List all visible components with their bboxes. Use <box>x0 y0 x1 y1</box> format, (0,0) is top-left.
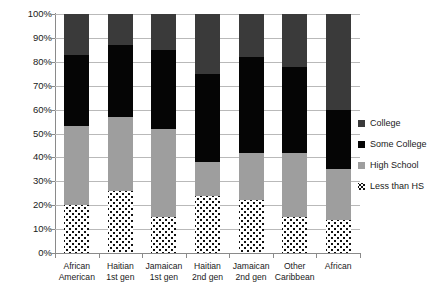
segment-high-school[interactable] <box>108 117 133 191</box>
segment-college[interactable] <box>282 14 307 67</box>
segment-high-school[interactable] <box>64 126 89 205</box>
segment-some-college[interactable] <box>108 45 133 117</box>
x-tick-mark-0 <box>55 253 56 258</box>
segment-high-school[interactable] <box>326 169 351 219</box>
y-tick-label-90: 90% <box>6 33 52 43</box>
x-label-african: African <box>312 261 364 272</box>
segment-less-than-hs[interactable] <box>151 217 176 253</box>
y-tick-label-50: 50% <box>6 129 52 139</box>
legend-swatch-some-college-icon <box>358 141 365 148</box>
segment-high-school[interactable] <box>151 129 176 217</box>
segment-some-college[interactable] <box>151 50 176 129</box>
segment-some-college[interactable] <box>282 67 307 153</box>
bar-other-caribbean[interactable] <box>282 14 307 253</box>
plot-area <box>55 14 360 253</box>
segment-less-than-hs[interactable] <box>64 205 89 253</box>
x-tick-mark-3 <box>186 253 187 258</box>
y-tick-label-40: 40% <box>6 152 52 162</box>
legend-swatch-high-school-icon <box>358 162 365 169</box>
x-tick-mark-4 <box>229 253 230 258</box>
legend-label: High School <box>370 161 419 170</box>
x-label-line-1: African <box>325 261 352 271</box>
y-tick-label-20: 20% <box>6 200 52 210</box>
bar-african[interactable] <box>326 14 351 253</box>
segment-less-than-hs[interactable] <box>326 220 351 253</box>
bar-african-american[interactable] <box>64 14 89 253</box>
y-tick-label-10: 10% <box>6 224 52 234</box>
bar-haitian-1st-gen[interactable] <box>108 14 133 253</box>
segment-less-than-hs[interactable] <box>108 191 133 253</box>
segment-college[interactable] <box>64 14 89 55</box>
segment-high-school[interactable] <box>239 153 264 201</box>
segment-college[interactable] <box>239 14 264 57</box>
legend-item-college[interactable]: College <box>358 115 444 132</box>
bar-haitian-2nd-gen[interactable] <box>195 14 220 253</box>
segment-less-than-hs[interactable] <box>282 217 307 253</box>
y-tick-label-30: 30% <box>6 176 52 186</box>
gridline-0 <box>55 253 360 254</box>
y-tick-label-60: 60% <box>6 105 52 115</box>
segment-college[interactable] <box>326 14 351 110</box>
segment-high-school[interactable] <box>195 162 220 195</box>
x-label-line-1: Jamaican <box>233 261 270 271</box>
x-tick-mark-6 <box>316 253 317 258</box>
bar-jamaican-2nd-gen[interactable] <box>239 14 264 253</box>
y-tick-label-0: 0% <box>6 248 52 258</box>
segment-less-than-hs[interactable] <box>195 196 220 253</box>
x-label-line-2: Caribbean <box>269 272 321 283</box>
legend-item-less-than-hs[interactable]: Less than HS <box>358 178 444 195</box>
stacked-bar-chart: 0%10%20%30%40%50%60%70%80%90%100% Africa… <box>0 0 444 296</box>
segment-high-school[interactable] <box>282 153 307 218</box>
bar-jamaican-1st-gen[interactable] <box>151 14 176 253</box>
y-tick-label-80: 80% <box>6 57 52 67</box>
legend-label: Some College <box>370 140 427 149</box>
segment-college[interactable] <box>151 14 176 50</box>
segment-some-college[interactable] <box>239 57 264 153</box>
segment-less-than-hs[interactable] <box>239 200 264 253</box>
y-tick-label-100: 100% <box>6 9 52 19</box>
legend-item-high-school[interactable]: High School <box>358 157 444 174</box>
legend-swatch-college-icon <box>358 120 365 127</box>
segment-some-college[interactable] <box>64 55 89 127</box>
x-label-line-1: African <box>63 261 90 271</box>
segment-college[interactable] <box>108 14 133 45</box>
x-tick-mark-7 <box>360 253 361 258</box>
segment-some-college[interactable] <box>195 74 220 162</box>
legend-item-some-college[interactable]: Some College <box>358 136 444 153</box>
segment-college[interactable] <box>195 14 220 74</box>
legend: CollegeSome CollegeHigh SchoolLess than … <box>358 115 444 199</box>
legend-label: Less than HS <box>370 182 424 191</box>
x-tick-mark-1 <box>99 253 100 258</box>
y-tick-label-70: 70% <box>6 81 52 91</box>
x-tick-mark-5 <box>273 253 274 258</box>
legend-label: College <box>370 119 401 128</box>
x-label-line-1: Other <box>284 261 306 271</box>
x-label-line-1: Haitian <box>194 261 221 271</box>
legend-swatch-less-than-hs-icon <box>358 183 365 190</box>
x-label-line-1: Jamaican <box>146 261 183 271</box>
x-tick-mark-2 <box>142 253 143 258</box>
segment-some-college[interactable] <box>326 110 351 170</box>
x-label-line-1: Haitian <box>107 261 134 271</box>
